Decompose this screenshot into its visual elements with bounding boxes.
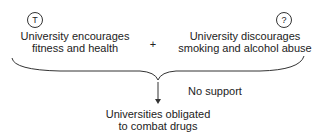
support-label: No support (180, 85, 250, 97)
conclusion-line-2: to combat drugs (98, 120, 218, 132)
conclusion-line-1: Universities obligated (98, 108, 218, 120)
